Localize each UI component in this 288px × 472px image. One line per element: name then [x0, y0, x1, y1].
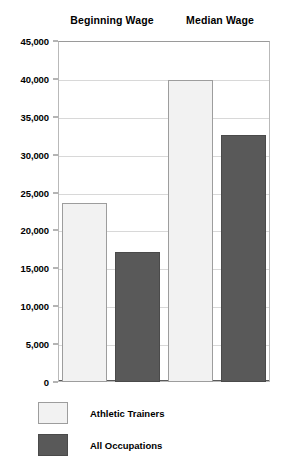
- wage-comparison-bar-chart: Beginning Wage Median Wage 45,00040,0003…: [0, 0, 288, 472]
- group-header-row: Beginning Wage Median Wage: [58, 14, 270, 32]
- bars-layer: [58, 41, 270, 382]
- bar: [168, 80, 213, 382]
- legend-item-athletic-trainers: Athletic Trainers: [38, 400, 258, 426]
- y-axis-tick-label: 10,000: [21, 301, 49, 312]
- group-header-beginning-wage: Beginning Wage: [58, 14, 166, 26]
- bar: [115, 252, 160, 382]
- legend-label-athletic-trainers: Athletic Trainers: [90, 408, 164, 419]
- y-axis-tick-label: 25,000: [21, 187, 49, 198]
- y-axis: 45,00040,00035,00030,00025,00020,00015,0…: [0, 41, 58, 382]
- y-axis-tick-label: 35,000: [21, 111, 49, 122]
- y-axis-tick-label: 0: [44, 377, 49, 388]
- bar: [221, 135, 266, 382]
- bar: [62, 203, 107, 382]
- legend-item-all-occupations: All Occupations: [38, 432, 258, 458]
- y-axis-tick-label: 40,000: [21, 73, 49, 84]
- chart-legend: Athletic Trainers All Occupations: [38, 400, 258, 464]
- legend-swatch-athletic-trainers: [38, 402, 68, 424]
- y-axis-tick-label: 20,000: [21, 225, 49, 236]
- legend-swatch-all-occupations: [38, 434, 68, 456]
- legend-label-all-occupations: All Occupations: [90, 440, 162, 451]
- y-axis-tick-label: 45,000: [21, 36, 49, 47]
- y-axis-tick-label: 15,000: [21, 263, 49, 274]
- group-header-median-wage: Median Wage: [166, 14, 274, 26]
- y-axis-tick-label: 30,000: [21, 149, 49, 160]
- y-axis-tick-label: 5,000: [26, 339, 49, 350]
